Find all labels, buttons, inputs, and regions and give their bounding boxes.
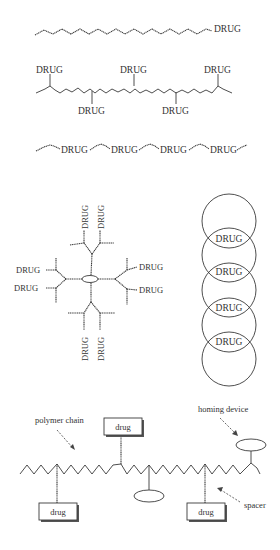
branch	[91, 254, 92, 275]
drug-label: DRUG	[120, 65, 147, 75]
chain-segment	[237, 145, 247, 150]
drug-label: DRUG	[216, 303, 243, 313]
polymer-chain-zigzag	[35, 29, 212, 35]
drug-label: DRUG	[80, 337, 90, 361]
chain-segment	[139, 144, 159, 150]
branch	[127, 267, 137, 270]
branch	[56, 279, 66, 288]
polymer-drug-conjugate-diagram: DRUG DRUG DRUG DRUG DRUG DRUG DRUG DRUG …	[0, 0, 280, 550]
homing-device-ellipse	[236, 439, 266, 451]
drug-box-label: drug	[115, 422, 131, 432]
branch	[115, 270, 127, 279]
drug-label: DRUG	[36, 65, 63, 75]
drug-label: DRUG	[78, 106, 105, 116]
branch	[84, 243, 92, 254]
homing-device-ellipse	[134, 490, 164, 502]
drug-label: DRUG	[80, 205, 90, 229]
branch	[91, 302, 100, 313]
drug-label: DRUG	[204, 65, 231, 75]
drug-box-label: drug	[198, 507, 214, 517]
drug-label: DRUG	[216, 337, 243, 347]
dendrimer-conjugate: DRUG DRUG DRUG DRUG DRUG DRUG DRUG DRUG	[14, 205, 163, 361]
chain-segment	[189, 144, 209, 150]
dendrimer-core	[82, 276, 98, 283]
branch	[56, 270, 66, 279]
overlapping-circles: DRUG DRUG DRUG DRUG	[202, 194, 256, 386]
pendant-conjugate: DRUG DRUG DRUG DRUG DRUG	[36, 65, 232, 116]
chain-segment	[36, 145, 60, 151]
drug-label: DRUG	[139, 285, 163, 295]
drug-label: DRUG	[210, 145, 237, 155]
drug-label: DRUG	[139, 262, 163, 272]
drug-label: DRUG	[160, 145, 187, 155]
branch	[70, 243, 84, 245]
polymer-backbone	[36, 86, 232, 93]
branch	[127, 289, 137, 290]
spacer-label: spacer	[244, 500, 266, 510]
spacer-arrow	[221, 490, 240, 502]
drug-box-label: drug	[50, 507, 66, 517]
polymer-chain-arrow	[57, 430, 72, 447]
drug-label: DRUG	[14, 283, 38, 293]
homing-device-arrow	[220, 418, 235, 433]
drug-label: DRUG	[216, 267, 243, 277]
linear-end-conjugate: DRUG	[35, 24, 241, 35]
branch	[92, 243, 100, 254]
drug-label: DRUG	[216, 234, 243, 244]
branch	[84, 302, 91, 313]
arrow-head	[70, 444, 75, 450]
backbone-conjugate: DRUG DRUG DRUG DRUG	[36, 144, 247, 155]
drug-label: DRUG	[96, 205, 106, 229]
homing-device-label: homing device	[198, 404, 249, 414]
drug-label: DRUG	[96, 337, 106, 361]
polymer-drug-model: drug drug drug polymer chain homing devi…	[20, 404, 266, 522]
polymer-chain-label: polymer chain	[35, 415, 85, 425]
chain-segment	[90, 144, 110, 150]
drug-label: DRUG	[16, 265, 40, 275]
arrow-head	[217, 487, 223, 492]
branch	[115, 279, 127, 289]
drug-label: DRUG	[214, 24, 241, 34]
polymer-backbone	[20, 463, 260, 474]
drug-label: DRUG	[162, 106, 189, 116]
drug-label: DRUG	[61, 145, 88, 155]
drug-label: DRUG	[111, 145, 138, 155]
